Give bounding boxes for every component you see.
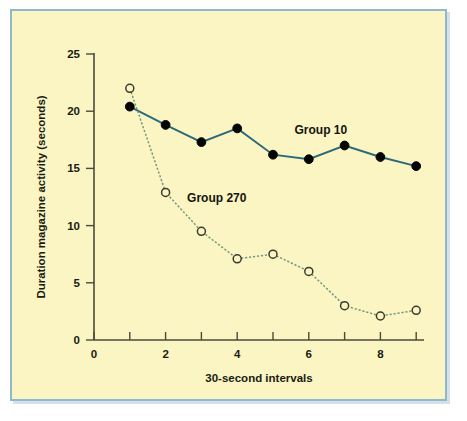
data-point [269,250,277,258]
data-point [233,255,241,263]
y-tick-label: 0 [74,334,80,346]
x-tick-label: 6 [306,348,312,360]
data-point [162,188,170,196]
data-point [197,227,205,235]
figure-frame: 0510152025 Duration magazine activity (s… [10,9,447,401]
x-axis-title: 30-second intervals [205,372,312,384]
series-label-1: Group 10 [294,123,347,137]
x-tick-label: 2 [162,348,168,360]
x-tick-label: 8 [377,348,384,360]
x-axis-tick-labels: 02468 [91,348,384,360]
data-point [376,312,384,320]
x-tick-label: 4 [234,348,241,360]
data-point [305,267,313,275]
data-point [341,302,349,310]
series-1 [125,102,420,170]
y-tick-label: 10 [67,220,80,232]
series-labels-layer: Group 10Group 270 [187,123,347,204]
data-point [269,150,278,159]
data-point [376,153,385,162]
y-axis: 0510152025 Duration magazine activity (s… [35,48,94,346]
y-tick-label: 20 [67,105,80,117]
line-chart-svg: 0510152025 Duration magazine activity (s… [12,11,449,403]
y-tick-label: 25 [67,48,80,60]
x-axis-ticks [94,332,416,340]
data-point [197,138,206,147]
series-label-2: Group 270 [187,191,247,205]
data-point [304,155,313,164]
y-tick-label: 5 [74,277,81,289]
data-point [412,306,420,314]
y-axis-ticks [86,54,94,340]
data-point [340,141,349,150]
series-line [130,88,416,316]
y-axis-tick-labels: 0510152025 [67,48,80,346]
data-point [412,162,421,171]
x-tick-label: 0 [91,348,97,360]
data-point [161,121,170,130]
chart-plot-area: 0510152025 Duration magazine activity (s… [12,11,449,403]
x-axis: 02468 30-second intervals [91,332,424,384]
data-series-layer [125,84,420,320]
data-point [125,102,134,111]
y-tick-label: 15 [67,162,80,174]
series-2 [126,84,420,320]
data-point [233,124,242,133]
data-point [126,84,134,92]
y-axis-title: Duration magazine activity (seconds) [35,95,47,298]
